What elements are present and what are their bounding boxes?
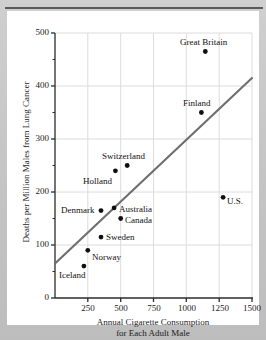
data-point-holland <box>113 168 118 173</box>
data-point-finland <box>199 110 204 115</box>
x-tick-label-250: 250 <box>77 304 99 313</box>
x-tick-label-500: 500 <box>110 304 132 313</box>
x-tick-label-1000: 1000 <box>174 304 200 313</box>
data-point-great-britain <box>203 49 208 54</box>
x-axis-title-line2: for Each Adult Male <box>53 328 253 338</box>
data-point-norway <box>85 248 90 253</box>
data-point-sweden <box>99 235 104 240</box>
point-label-holland: Holland <box>83 177 112 186</box>
data-point-canada <box>118 216 123 221</box>
data-point-iceland <box>82 264 87 269</box>
scatter-plot: 500 400 300 200 100 0 250 500 750 1000 1… <box>7 11 259 325</box>
point-label-sweden: Sweden <box>106 233 135 242</box>
x-tick-label-1500: 1500 <box>239 304 265 313</box>
data-point-switzerland <box>125 163 130 168</box>
page-background: 500 400 300 200 100 0 250 500 750 1000 1… <box>0 0 266 340</box>
point-label-iceland: Iceland <box>59 271 85 280</box>
point-label-canada: Canada <box>125 216 152 225</box>
plot-canvas <box>7 11 259 325</box>
point-label-denmark: Denmark <box>61 206 95 215</box>
x-axis-title-line1: Annual Cigarette Consumption <box>53 317 253 327</box>
figure-panel: 500 400 300 200 100 0 250 500 750 1000 1… <box>7 11 259 325</box>
point-label-finland: Finland <box>183 99 211 108</box>
x-tick-label-1250: 1250 <box>207 304 233 313</box>
point-label-us: U.S. <box>227 197 243 206</box>
point-label-switzerland: Switzerland <box>102 152 145 161</box>
point-label-norway: Norway <box>92 253 121 262</box>
x-tick-label-750: 750 <box>143 304 165 313</box>
data-point-australia <box>112 206 117 211</box>
data-point-us <box>221 195 226 200</box>
y-axis-title: Deaths per Million Males from Lung Cance… <box>21 26 31 298</box>
data-point-denmark <box>99 208 104 213</box>
point-label-great-britain: Great Britain <box>180 38 227 47</box>
page-top-rule <box>5 7 263 9</box>
point-label-australia: Australia <box>119 205 152 214</box>
